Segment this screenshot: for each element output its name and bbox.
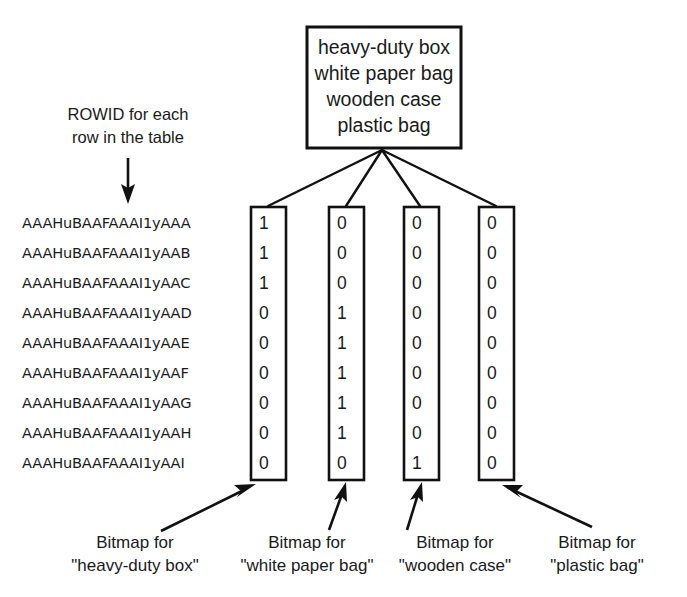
rowid-list-item: AAAHuBAAFAAAI1yAAD xyxy=(22,304,191,321)
rowid-note-line-2: row in the table xyxy=(72,128,184,146)
bitmap-bit: 0 xyxy=(412,423,422,443)
caption-line-1: Bitmap for xyxy=(416,533,494,552)
caption-line-2: "wooden case" xyxy=(399,556,511,575)
column-value-line-2: white paper bag xyxy=(314,62,454,84)
bitmap-bit: 0 xyxy=(337,273,347,293)
bitmap-bit: 1 xyxy=(259,213,269,233)
caption-arrow-icon xyxy=(502,485,592,527)
rowid-list-item: AAAHuBAAFAAAI1yAAE xyxy=(22,334,189,351)
caption-arrow-icon xyxy=(329,482,347,530)
rowid-list-item: AAAHuBAAFAAAI1yAAF xyxy=(22,364,189,381)
bitmap-caption-white-paper-bag: Bitmap for "white paper bag" xyxy=(240,482,373,575)
bitmap-caption-wooden-case: Bitmap for "wooden case" xyxy=(399,482,511,575)
caption-line-1: Bitmap for xyxy=(558,533,636,552)
caption-line-2: "plastic bag" xyxy=(550,556,643,575)
bitmap-bit: 0 xyxy=(412,213,422,233)
column-values-box: heavy-duty box white paper bag wooden ca… xyxy=(307,27,461,148)
rowid-note-line-1: ROWID for each xyxy=(67,105,188,123)
bitmap-bit: 1 xyxy=(259,243,269,263)
column-value-line-1: heavy-duty box xyxy=(318,36,450,58)
bitmap-caption-plastic-bag: Bitmap for "plastic bag" xyxy=(502,485,644,575)
bitmap-bit: 0 xyxy=(487,363,497,383)
fanout-line-4 xyxy=(382,150,496,206)
bitmap-bit: 0 xyxy=(259,303,269,323)
bitmap-bit: 0 xyxy=(487,303,497,323)
bitmap-bit: 0 xyxy=(487,393,497,413)
bitmap-bit: 1 xyxy=(337,333,347,353)
bitmap-bit: 1 xyxy=(337,423,347,443)
bitmap-bit: 0 xyxy=(487,243,497,263)
column-value-line-3: wooden case xyxy=(326,88,442,110)
bitmap-bit: 0 xyxy=(412,333,422,353)
rowid-list-item: AAAHuBAAFAAAI1yAAH xyxy=(22,424,191,441)
bitmap-bit: 0 xyxy=(412,363,422,383)
caption-arrow-icon xyxy=(407,482,423,530)
bitmap-bit: 1 xyxy=(337,393,347,413)
bitmap-bit: 0 xyxy=(259,393,269,413)
bitmap-bit: 0 xyxy=(487,333,497,353)
caption-line-2: "white paper bag" xyxy=(240,556,373,575)
rowid-list-item: AAAHuBAAFAAAI1yAAB xyxy=(22,244,190,261)
column-value-line-4: plastic bag xyxy=(337,114,430,136)
bitmap-column-white-paper-bag: 0 0 0 1 1 1 1 1 0 xyxy=(329,207,364,480)
caption-line-1: Bitmap for xyxy=(268,533,346,552)
rowid-note: ROWID for each row in the table xyxy=(67,105,188,204)
bitmap-bit: 0 xyxy=(412,393,422,413)
bitmap-bit: 0 xyxy=(259,453,269,473)
bitmap-bit: 0 xyxy=(487,273,497,293)
bitmap-column-wooden-case: 0 0 0 0 0 0 0 0 1 xyxy=(404,207,439,480)
bitmap-bit: 0 xyxy=(487,213,497,233)
fanout-connectors xyxy=(268,150,496,206)
rowid-down-arrow-icon xyxy=(121,158,135,204)
rowid-list-item: AAAHuBAAFAAAI1yAAC xyxy=(22,274,190,291)
rowid-list-item: AAAHuBAAFAAAI1yAAA xyxy=(22,214,191,231)
bitmap-bit: 0 xyxy=(412,303,422,323)
bitmap-bit: 0 xyxy=(337,243,347,263)
bitmap-bit: 0 xyxy=(259,363,269,383)
bitmap-bit: 0 xyxy=(337,453,347,473)
bitmap-column-heavy-duty-box: 1 1 1 0 0 0 0 0 0 xyxy=(251,207,286,480)
bitmap-bit: 0 xyxy=(487,453,497,473)
bitmap-bit: 0 xyxy=(487,423,497,443)
bitmap-bit: 1 xyxy=(259,273,269,293)
bitmap-bit: 0 xyxy=(259,423,269,443)
bitmap-bit: 1 xyxy=(337,303,347,323)
caption-line-2: "heavy-duty box" xyxy=(71,556,198,575)
bitmap-bit: 0 xyxy=(337,213,347,233)
caption-arrow-icon xyxy=(161,484,256,531)
rowid-list-item: AAAHuBAAFAAAI1yAAG xyxy=(22,394,191,411)
bitmap-bit: 1 xyxy=(337,363,347,383)
bitmap-bit: 0 xyxy=(412,273,422,293)
bitmap-bit: 1 xyxy=(412,453,422,473)
rowid-list-item: AAAHuBAAFAAAI1yAAI xyxy=(22,454,185,471)
caption-line-1: Bitmap for xyxy=(96,533,174,552)
rowid-list: AAAHuBAAFAAAI1yAAA AAAHuBAAFAAAI1yAAB AA… xyxy=(22,214,191,471)
bitmap-column-plastic-bag: 0 0 0 0 0 0 0 0 0 xyxy=(479,207,514,480)
bitmap-bit: 0 xyxy=(259,333,269,353)
bitmap-caption-heavy-duty-box: Bitmap for "heavy-duty box" xyxy=(71,484,256,575)
bitmap-index-diagram: heavy-duty box white paper bag wooden ca… xyxy=(0,0,687,597)
bitmap-bit: 0 xyxy=(412,243,422,263)
